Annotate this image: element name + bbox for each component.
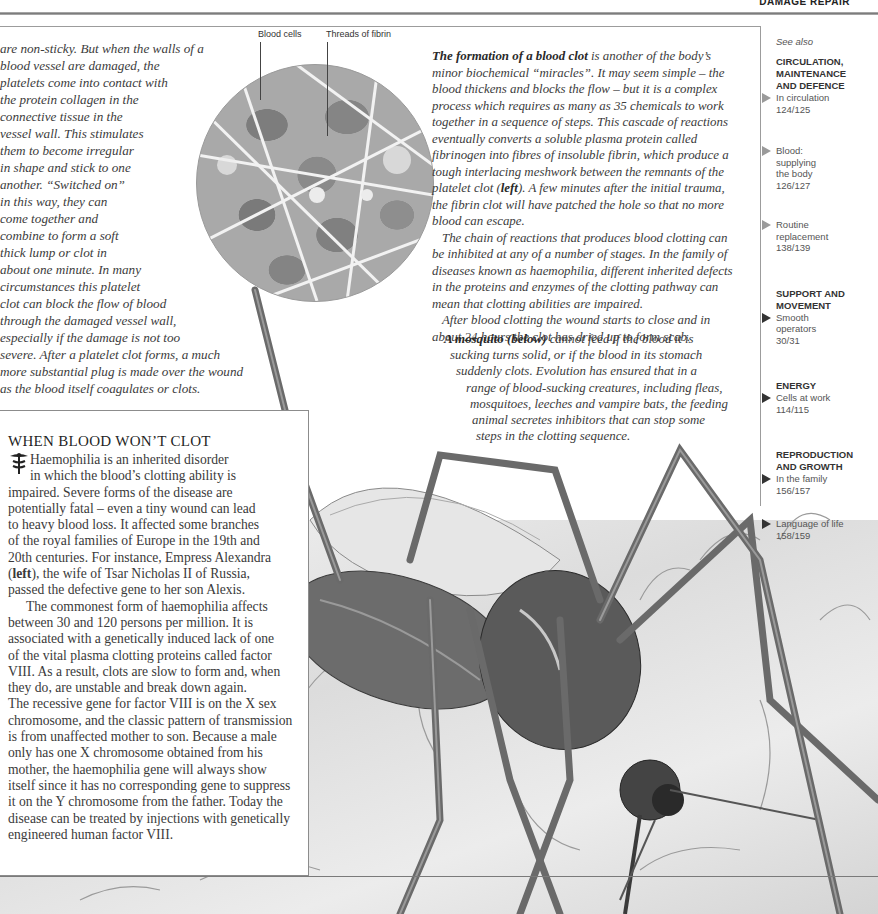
label-blood-cells: Blood cells	[258, 29, 302, 39]
text-line: process which requires as many as 35 che…	[432, 98, 762, 115]
see-also-label: See also	[776, 36, 876, 47]
link-pages: 30/31	[776, 335, 876, 347]
text-line: are non-sticky. But when the walls of a	[0, 40, 380, 57]
triangle-arrow-icon	[762, 313, 771, 323]
link-text: In the family	[776, 473, 876, 485]
text-line: engineered human factor VIII.	[8, 827, 308, 843]
see-also-link-in-the-family[interactable]: In the family 156/157	[776, 473, 876, 496]
page-section-title: DAMAGE REPAIR	[759, 0, 850, 7]
see-also-link-language-of-life[interactable]: Language of life 158/159	[776, 518, 876, 541]
mosquito-caption: A mosquito (below) cannot feed if the bl…	[444, 331, 764, 444]
text-line: together in a sequence of steps. This ca…	[432, 114, 762, 131]
text-line: between 30 and 120 persons per million. …	[8, 615, 308, 631]
triangle-arrow-icon	[762, 93, 771, 103]
text-line: through the damaged vessel wall,	[0, 312, 380, 329]
see-also-section-circulation: CIRCULATION, MAINTENANCE AND DEFENCE	[776, 56, 876, 92]
link-text: Cells at work	[776, 392, 876, 404]
link-pages: 138/139	[776, 242, 876, 254]
header-rule	[0, 12, 878, 15]
text-line: mother, the haemophilia gene will always…	[8, 762, 308, 778]
text-line: associated with a genetically induced la…	[8, 631, 308, 647]
text-line: steps in the clotting sequence.	[444, 428, 764, 444]
text-line: more substantial plug is made over the w…	[0, 363, 380, 380]
text-line: 20th centuries. For instance, Empress Al…	[8, 550, 308, 566]
text-line: the fibrin clot will have patched the ho…	[432, 197, 762, 214]
link-text: the body	[776, 168, 876, 180]
section-title-line: AND GROWTH	[776, 461, 876, 473]
bottom-rule	[0, 876, 878, 877]
text-line: platelet clot (left). A few minutes afte…	[432, 180, 762, 197]
text-line: mosquitoes, leeches and vampire bats, th…	[444, 396, 764, 412]
link-text: Smooth	[776, 312, 876, 324]
link-text: Routine	[776, 219, 876, 231]
section-title-line: SUPPORT AND	[776, 288, 876, 300]
link-text: operators	[776, 323, 876, 335]
see-also-link-in-circulation[interactable]: In circulation 124/125	[776, 92, 876, 115]
figure-reference-left: left	[13, 566, 32, 581]
fibrin-threads-icon	[197, 65, 433, 301]
text-line: After blood clotting the wound starts to…	[432, 312, 762, 329]
main-column-text: The formation of a blood clot is another…	[432, 48, 762, 345]
section-title-line: ENERGY	[776, 380, 876, 392]
see-also-link-routine-replacement[interactable]: Routine replacement 138/139	[776, 219, 876, 254]
text-fragment: ). A few minutes after the initial traum…	[518, 181, 725, 195]
link-pages: 158/159	[776, 530, 876, 542]
text-line: tough interlacing meshwork between the r…	[432, 164, 762, 181]
text-line: especially if the damage is not too	[0, 329, 380, 346]
text-line: suddenly clots. Evolution has ensured th…	[444, 363, 764, 379]
text-line: to heavy blood loss. It affected some br…	[8, 517, 308, 533]
text-line: range of blood-sucking creatures, includ…	[444, 380, 764, 396]
link-pages: 124/125	[776, 104, 876, 116]
text-line: fibrinogen into fibres of insoluble fibr…	[432, 147, 762, 164]
text-line: diseases known as haemophilia, different…	[432, 263, 762, 280]
text-line: blood thickens and blocks the flow – but…	[432, 81, 762, 98]
section-title-line: AND DEFENCE	[776, 80, 876, 92]
text-line: Haemophilia is an inherited disorder	[8, 452, 308, 468]
triangle-arrow-icon	[762, 519, 771, 529]
text-line: The recessive gene for factor VIII is on…	[8, 696, 308, 712]
text-line: it on the Y chromosome from the father. …	[8, 794, 308, 810]
content-box-border-top	[0, 26, 760, 27]
text-line: A mosquito (below) cannot feed if the bl…	[444, 331, 764, 347]
text-fragment: ), the wife of Tsar Nicholas II of Russi…	[31, 566, 250, 581]
text-line: sucking turns solid, or if the blood in …	[444, 347, 764, 363]
triangle-arrow-icon	[762, 474, 771, 484]
text-line: of the royal families of Europe in the 1…	[8, 533, 308, 549]
link-text: supplying	[776, 157, 876, 169]
text-line: is from unaffected mother to son. Becaus…	[8, 729, 308, 745]
section-title-line: REPRODUCTION	[776, 449, 876, 461]
see-also-link-blood-supplying[interactable]: Blood: supplying the body 126/127	[776, 145, 876, 191]
caption-lead: A mosquito (below)	[444, 332, 546, 346]
paragraph-lead: The formation of a blood clot	[432, 49, 588, 63]
text-line: as the blood itself coagulates or clots.	[0, 380, 380, 397]
text-line: blood can escape.	[432, 213, 762, 230]
see-also-link-cells-at-work[interactable]: Cells at work 114/115	[776, 392, 876, 415]
leader-line-blood-cells	[260, 42, 261, 100]
link-pages: 126/127	[776, 180, 876, 192]
text-line: disease can be treated by injections wit…	[8, 811, 308, 827]
text-line: mean that clotting abilities are impaire…	[432, 296, 762, 313]
text-line: eventually converts a soluble plasma pro…	[432, 131, 762, 148]
see-also-section-energy: ENERGY	[776, 380, 876, 392]
text-line: VIII. As a result, clots are slow to for…	[8, 664, 308, 680]
text-line: impaired. Severe forms of the disease ar…	[8, 485, 308, 501]
text-line: minor biochemical “miracles”. It may see…	[432, 65, 762, 82]
figure-reference-left: left	[501, 181, 518, 195]
triangle-arrow-icon	[762, 220, 771, 230]
label-threads-of-fibrin: Threads of fibrin	[326, 29, 391, 39]
link-text: Blood:	[776, 145, 876, 157]
text-line: animal secretes inhibitors that can stop…	[444, 412, 764, 428]
text-line: severe. After a platelet clot forms, a m…	[0, 346, 380, 363]
text-line: they do, are unstable and break down aga…	[8, 680, 308, 696]
section-title-line: MAINTENANCE	[776, 68, 876, 80]
link-pages: 156/157	[776, 485, 876, 497]
text-line: (left), the wife of Tsar Nicholas II of …	[8, 566, 308, 582]
see-also-section-support: SUPPORT AND MOVEMENT	[776, 288, 876, 312]
sidebar-title: WHEN BLOOD WON’T CLOT	[8, 433, 211, 450]
text-line: in the proteins and enzymes of the clott…	[432, 279, 762, 296]
link-text: Language of life	[776, 518, 876, 530]
text-line: of the vital plasma clotting proteins ca…	[8, 648, 308, 664]
see-also-link-smooth-operators[interactable]: Smooth operators 30/31	[776, 312, 876, 347]
text-fragment: is another of the body’s	[588, 49, 711, 63]
text-line: passed the defective gene to her son Ale…	[8, 582, 308, 598]
